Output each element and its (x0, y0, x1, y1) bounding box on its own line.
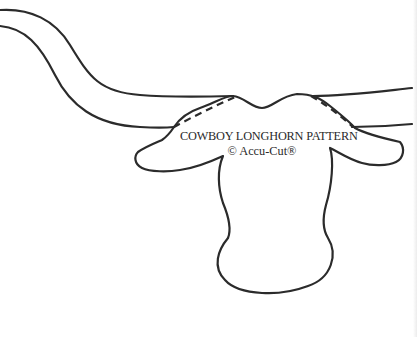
copyright-notice: © Accu-Cut® (180, 144, 344, 159)
longhorn-outline-drawing (0, 0, 417, 337)
scan-edge-shadow (413, 0, 417, 337)
right-horn-lower-edge (352, 124, 412, 127)
head-outline (135, 94, 403, 293)
left-fold-dashed-line (174, 97, 235, 127)
longhorn-pattern (0, 0, 417, 337)
right-horn-upper-edge (313, 88, 412, 96)
pattern-caption: COWBOY LONGHORN PATTERN © Accu-Cut® (180, 129, 344, 159)
right-fold-dashed-line (311, 96, 353, 127)
left-horn-lower-edge (0, 26, 174, 128)
pattern-title: COWBOY LONGHORN PATTERN (180, 129, 344, 144)
left-horn-upper-edge (0, 10, 233, 97)
